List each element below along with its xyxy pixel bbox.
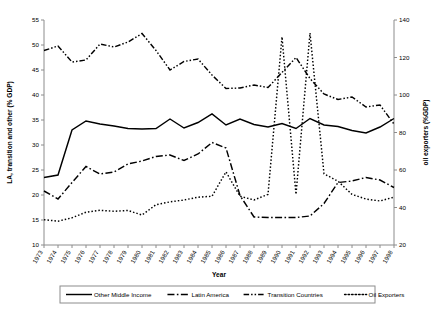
x-tick-label: 1986 — [213, 249, 226, 265]
x-tick-label: 1998 — [381, 249, 394, 265]
x-tick-label: 1994 — [325, 249, 338, 265]
y-tick-label-right: 60 — [399, 166, 406, 173]
x-tick-label: 1997 — [367, 249, 380, 265]
chart-figure: 1015202530354045505520406080100120140197… — [0, 0, 439, 313]
x-tick-label: 1989 — [255, 249, 268, 265]
y-tick-label-left: 20 — [32, 191, 39, 198]
x-tick-label: 1974 — [45, 249, 58, 265]
y-tick-label-right: 100 — [399, 91, 410, 98]
x-tick-label: 1977 — [87, 249, 100, 265]
x-tick-label: 1978 — [101, 249, 114, 265]
y-tick-label-left: 10 — [32, 241, 39, 248]
y-tick-label-left: 55 — [32, 16, 39, 23]
series-line-2 — [44, 34, 394, 125]
x-tick-label: 1988 — [241, 249, 254, 265]
x-tick-label: 1975 — [59, 249, 72, 265]
x-tick-label: 1983 — [171, 249, 184, 265]
y-tick-label-right: 120 — [399, 54, 410, 61]
y-tick-label-left: 15 — [32, 216, 39, 223]
y-tick-label-left: 40 — [32, 91, 39, 98]
y-tick-label-left: 25 — [32, 166, 39, 173]
x-tick-label: 1995 — [339, 249, 352, 265]
x-tick-label: 1982 — [157, 249, 170, 265]
y-axis-title-right: oil exporters (%GDP) — [422, 100, 430, 166]
y-tick-label-left: 50 — [32, 41, 39, 48]
x-tick-label: 1976 — [73, 249, 86, 265]
legend-label-2: Transition Countries — [268, 291, 323, 298]
chart-canvas: 1015202530354045505520406080100120140197… — [0, 0, 439, 313]
x-tick-label: 1981 — [143, 249, 156, 265]
x-tick-label: 1993 — [311, 249, 324, 265]
legend-label-0: Other Middle Income — [94, 291, 152, 298]
y-tick-label-right: 40 — [399, 204, 406, 211]
y-tick-label-left: 45 — [32, 66, 39, 73]
x-tick-label: 1973 — [31, 249, 44, 265]
x-tick-label: 1985 — [199, 249, 212, 265]
series-line-1 — [44, 143, 394, 218]
x-tick-label: 1992 — [297, 249, 310, 265]
chart-svg: 1015202530354045505520406080100120140197… — [0, 0, 439, 313]
x-tick-label: 1987 — [227, 249, 240, 265]
x-tick-label: 1980 — [129, 249, 142, 265]
x-tick-label: 1996 — [353, 249, 366, 265]
x-tick-label: 1991 — [283, 249, 296, 265]
x-tick-label: 1984 — [185, 249, 198, 265]
x-axis-title: Year — [212, 271, 226, 278]
y-tick-label-left: 30 — [32, 141, 39, 148]
y-tick-label-right: 140 — [399, 16, 410, 23]
x-tick-label: 1979 — [115, 249, 128, 265]
y-tick-label-right: 20 — [399, 241, 406, 248]
legend-label-3: Oil Exporters — [369, 291, 405, 298]
y-tick-label-right: 80 — [399, 129, 406, 136]
y-axis-title-left: LA, transition and other (% GDP) — [6, 81, 14, 184]
y-tick-label-left: 35 — [32, 116, 39, 123]
x-tick-label: 1990 — [269, 249, 282, 265]
legend-label-1: Latin America — [191, 291, 229, 298]
